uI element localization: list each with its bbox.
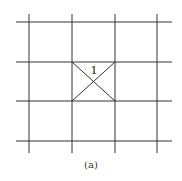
caption: (a) (84, 159, 98, 170)
grid-diagram: 1 (a) (0, 0, 182, 181)
grid-lines (16, 14, 172, 153)
cell-label: 1 (91, 64, 98, 77)
